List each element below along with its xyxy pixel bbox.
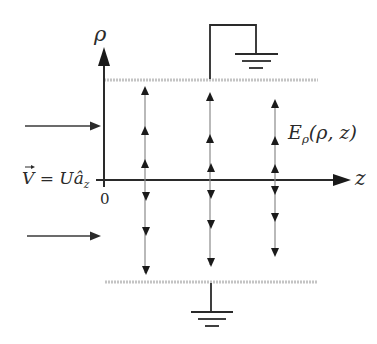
diagram-canvas: ρ z 0 Eρ(ρ, z) V = Uâz [0, 0, 377, 344]
field-arrow-down-icon [271, 213, 279, 222]
field-arrow-down-icon [207, 258, 215, 267]
field-arrow-up-icon [271, 164, 279, 173]
rho-axis-arrowhead-icon [98, 47, 110, 66]
field-arrow-up-icon [206, 92, 214, 101]
field-label-main: E [288, 121, 302, 143]
field-arrow-down-icon [271, 248, 279, 257]
flow-arrowhead-icon [90, 232, 101, 241]
velocity-symbol: V [22, 168, 34, 188]
origin-label: 0 [100, 192, 110, 207]
field-arrow-up-icon [141, 126, 149, 135]
field-arrow-up-icon [141, 159, 149, 168]
z-axis-label: z [355, 168, 366, 188]
velocity-unit-sub: z [84, 178, 90, 190]
field-arrow-down-icon [142, 192, 150, 201]
field-arrow-down-icon [271, 186, 279, 195]
z-axis [96, 174, 351, 186]
flow-arrow-lower [27, 232, 101, 241]
field-arrow-down-icon [142, 227, 150, 236]
field-arrow-down-icon [142, 266, 150, 275]
flow-arrowhead-icon [90, 122, 101, 131]
field-label: Eρ(ρ, z) [288, 123, 357, 146]
field-arrow-up-icon [141, 86, 149, 95]
top-ground-icon [210, 25, 278, 79]
field-arrow-up-icon [207, 163, 215, 172]
field-label-sub: ρ [302, 132, 309, 146]
field-arrow-up-icon [271, 99, 279, 108]
field-arrow-up-icon [271, 136, 279, 145]
field-arrow-up-icon [206, 134, 214, 143]
field-arrow-down-icon [207, 190, 215, 199]
rho-axis-label: ρ [94, 24, 106, 45]
bottom-ground-icon [191, 283, 233, 326]
velocity-equals: = [34, 168, 59, 188]
flow-arrow-upper [25, 122, 101, 131]
field-label-args: (ρ, z) [309, 121, 357, 143]
velocity-unit: â [74, 168, 84, 188]
z-axis-arrowhead-icon [333, 174, 351, 186]
field-column-3 [271, 99, 279, 257]
rho-axis [98, 47, 110, 187]
velocity-magnitude: U [59, 168, 73, 188]
field-arrow-down-icon [207, 220, 215, 229]
velocity-label: V = Uâz [22, 170, 89, 189]
